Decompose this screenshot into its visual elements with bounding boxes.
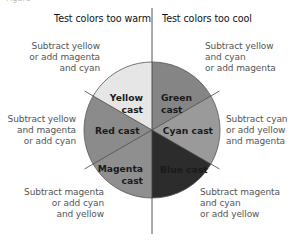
note-green-correction: Subtract yellow and cyan or add magenta [205, 41, 276, 74]
note-red-correction: Subtract yellow and magenta or add cyan [8, 114, 76, 147]
note-yellow-correction: Subtract yellow or add magenta and cyan [29, 41, 100, 74]
label-yellow-cast-2: cast [121, 104, 143, 115]
label-cyan-cast: Cyan cast [163, 125, 214, 136]
label-green-cast-1: Green [161, 92, 192, 103]
label-red-cast: Red cast [95, 125, 140, 136]
label-blue-cast: Blue cast [160, 164, 208, 175]
label-magenta-cast-1: Magenta [98, 163, 143, 174]
note-blue-correction: Subtract magenta and cyan or add yellow [200, 187, 280, 220]
note-cyan-correction: Subtract cyan or add yellow and magenta [226, 114, 287, 147]
label-magenta-cast-2: cast [121, 175, 143, 186]
label-yellow-cast-1: Yellow [109, 92, 144, 103]
label-green-cast-2: cast [161, 104, 183, 115]
note-magenta-correction: Subtract magenta or add cyan and yellow [24, 187, 104, 220]
